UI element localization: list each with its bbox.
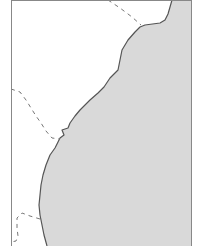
- map-canvas: [0, 0, 204, 246]
- map-view[interactable]: [0, 0, 204, 246]
